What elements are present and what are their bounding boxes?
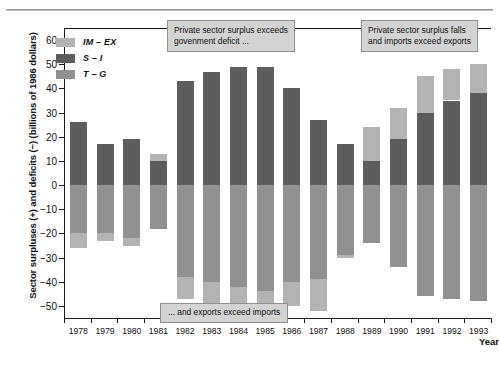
bar-segment bbox=[203, 185, 220, 282]
y-axis-tick-label: 30 bbox=[46, 107, 57, 118]
bar-segment bbox=[150, 154, 167, 161]
bar-segment bbox=[97, 185, 114, 233]
bar-segment bbox=[97, 233, 114, 240]
x-axis-tick bbox=[64, 318, 65, 323]
bar-segment bbox=[390, 108, 407, 139]
legend-item-label: IM – EX bbox=[83, 37, 116, 47]
y-axis-tick-label: 0 bbox=[51, 180, 57, 191]
bar-segment bbox=[257, 67, 274, 185]
legend-swatch-icon bbox=[56, 54, 75, 63]
bar-segment bbox=[337, 255, 354, 257]
bar-segment bbox=[257, 185, 274, 291]
x-axis-tick bbox=[464, 318, 465, 323]
bar-segment bbox=[283, 185, 300, 282]
bar-segment bbox=[310, 120, 327, 185]
bar-segment bbox=[337, 185, 354, 255]
bar-group-1987 bbox=[310, 28, 327, 318]
bar-segment bbox=[70, 122, 87, 185]
bar-group-1990 bbox=[390, 28, 407, 318]
bar-segment bbox=[150, 185, 167, 229]
y-axis-tick bbox=[59, 137, 64, 138]
legend-item: S – I bbox=[56, 52, 116, 64]
x-axis-tick bbox=[384, 318, 385, 323]
bar-segment bbox=[390, 185, 407, 267]
annotation-private-surplus-exceeds-deficit: Private sector surplus exceeds govenment… bbox=[167, 20, 295, 52]
bar-segment bbox=[150, 161, 167, 185]
y-axis-tick bbox=[59, 88, 64, 89]
x-axis-tick bbox=[411, 318, 412, 323]
bar-segment bbox=[230, 185, 247, 287]
x-axis-tick-label: 1993 bbox=[469, 326, 488, 336]
x-axis-tick-label: 1988 bbox=[336, 326, 355, 336]
x-axis-tick-label: 1981 bbox=[149, 326, 168, 336]
legend-swatch-icon bbox=[56, 38, 75, 47]
x-axis-tick-label: 1985 bbox=[256, 326, 275, 336]
x-axis-tick-label: 1983 bbox=[202, 326, 221, 336]
y-axis-tick-label: −10 bbox=[40, 204, 57, 215]
chart-figure: Sector surpluses (+) and deficits (−) (b… bbox=[0, 0, 499, 365]
bar-group-1989 bbox=[363, 28, 380, 318]
bar-group-1993 bbox=[470, 28, 487, 318]
x-axis-tick bbox=[117, 318, 118, 323]
y-axis-tick bbox=[59, 161, 64, 162]
bar-segment bbox=[443, 101, 460, 186]
bar-segment bbox=[363, 127, 380, 161]
y-axis-tick bbox=[59, 209, 64, 210]
x-axis-tick bbox=[438, 318, 439, 323]
bar-group-1980 bbox=[123, 28, 140, 318]
bar-segment bbox=[443, 185, 460, 299]
y-axis-tick bbox=[59, 306, 64, 307]
x-axis-tick-label: 1989 bbox=[362, 326, 381, 336]
bar-group-1983 bbox=[203, 28, 220, 318]
x-axis-tick-label: 1990 bbox=[389, 326, 408, 336]
x-axis-tick-label: 1991 bbox=[416, 326, 435, 336]
bar-segment bbox=[283, 88, 300, 185]
bar-segment bbox=[70, 233, 87, 248]
bar-group-1982 bbox=[177, 28, 194, 318]
bar-segment bbox=[123, 185, 140, 238]
bar-segment bbox=[417, 113, 434, 186]
y-axis-tick bbox=[59, 185, 64, 186]
x-axis-tick bbox=[491, 318, 492, 323]
x-axis-tick bbox=[358, 318, 359, 323]
legend-item-label: S – I bbox=[83, 53, 103, 63]
bar-segment bbox=[123, 238, 140, 245]
legend: IM – EXS – IT – G bbox=[56, 36, 116, 84]
bar-segment bbox=[203, 72, 220, 186]
bar-segment bbox=[97, 144, 114, 185]
legend-swatch-icon bbox=[56, 70, 75, 79]
y-axis-tick bbox=[59, 258, 64, 259]
bar-segment bbox=[70, 185, 87, 233]
x-axis-tick-label: 1980 bbox=[122, 326, 141, 336]
bar-segment bbox=[230, 67, 247, 185]
x-axis-tick-label: 1978 bbox=[69, 326, 88, 336]
bar-group-1984 bbox=[230, 28, 247, 318]
bar-segment bbox=[417, 76, 434, 112]
legend-item: T – G bbox=[56, 68, 116, 80]
bar-segment bbox=[310, 185, 327, 279]
y-axis-title: Sector surpluses (+) and deficits (−) (b… bbox=[27, 16, 38, 316]
bar-segment bbox=[470, 64, 487, 93]
legend-item: IM – EX bbox=[56, 36, 116, 48]
bar-group-1981 bbox=[150, 28, 167, 318]
bar-segment bbox=[177, 277, 194, 299]
y-axis-tick bbox=[59, 282, 64, 283]
y-axis-tick-label: −40 bbox=[40, 276, 57, 287]
y-axis-tick-label: 40 bbox=[46, 83, 57, 94]
bar-segment bbox=[337, 144, 354, 185]
x-axis-tick bbox=[331, 318, 332, 323]
bar-segment bbox=[177, 81, 194, 185]
y-axis-tick-label: −50 bbox=[40, 300, 57, 311]
bar-group-1992 bbox=[443, 28, 460, 318]
annotation-exports-exceed-imports: ... and exports exceed imports bbox=[160, 303, 288, 323]
bar-group-1985 bbox=[257, 28, 274, 318]
x-axis-tick-label: 1982 bbox=[176, 326, 195, 336]
bar-segment bbox=[363, 185, 380, 243]
x-axis-tick bbox=[304, 318, 305, 323]
bar-segment bbox=[310, 279, 327, 310]
x-axis-tick bbox=[91, 318, 92, 323]
x-axis-tick-label: 1979 bbox=[95, 326, 114, 336]
legend-item-label: T – G bbox=[83, 69, 107, 79]
bar-segment bbox=[470, 185, 487, 301]
x-axis-tick-label: 1984 bbox=[229, 326, 248, 336]
